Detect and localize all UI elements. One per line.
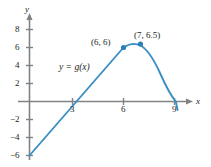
x-axis-label: x [196,97,200,106]
y-tick-label-6: 6 [15,43,20,52]
y-tick-label-4: 4 [15,61,20,70]
graph-figure: y x 8 6 4 2 −2 −4 −6 3 6 9 (6, 6) (7, 6.… [0,0,211,167]
x-tick-label-6: 6 [121,105,126,114]
annotation-point-6-6: (6, 6) [91,38,111,47]
data-point-marker-6-6 [121,45,126,50]
y-tick-label-minus-4: −4 [10,133,20,142]
y-tick-label-minus-2: −2 [10,115,20,124]
y-tick-label-2: 2 [15,79,20,88]
y-axis-label: y [25,5,29,14]
x-axis-arrow-icon [186,98,193,104]
annotation-function-label: y = g(x) [59,63,90,73]
function-curve [30,44,178,156]
x-tick-label-9: 9 [172,105,177,114]
y-tick-label-minus-6: −6 [10,151,20,160]
x-tick-label-3: 3 [70,105,75,114]
y-tick-label-8: 8 [15,25,20,34]
annotation-point-7-65: (7, 6.5) [134,31,160,40]
data-point-marker-7-65 [138,41,143,46]
y-axis-arrow-icon [26,13,32,20]
coordinate-plot [0,0,211,167]
